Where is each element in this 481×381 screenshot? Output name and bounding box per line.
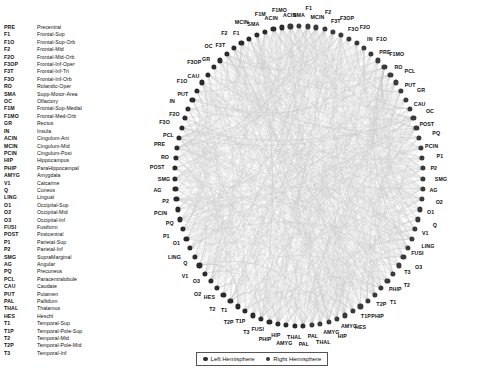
graph-node-f2o[interactable] [182,115,187,120]
graph-node-f1o[interactable] [369,51,374,56]
graph-node-f1m[interactable] [263,29,268,34]
graph-node-thal[interactable] [292,323,297,328]
graph-node-o1[interactable] [417,207,422,212]
graph-node-ro[interactable] [173,155,178,160]
graph-node-f2[interactable] [231,46,236,51]
graph-node-mcin[interactable] [313,25,318,30]
graph-node-o2[interactable] [419,197,424,202]
graph-node-f1mo[interactable] [279,25,284,30]
graph-node-t3[interactable] [396,263,401,268]
graph-node-f1[interactable] [239,41,244,46]
abbreviation-row: FUSIFusiform [4,224,128,231]
graph-node-amyg[interactable] [284,323,289,328]
graph-node-ling[interactable] [409,236,414,241]
graph-node-amyg[interactable] [326,319,331,324]
graph-node-sma[interactable] [254,32,259,37]
graph-node-o1[interactable] [184,236,189,241]
graph-node-f3t[interactable] [224,51,229,56]
graph-node-in[interactable] [186,106,191,111]
graph-node-pcl[interactable] [177,135,182,140]
graph-node-t3[interactable] [250,313,255,318]
graph-node-hes[interactable] [350,309,355,314]
graph-node-acin[interactable] [271,27,276,32]
graph-node-t1p[interactable] [243,309,248,314]
graph-node-t1[interactable] [379,286,384,291]
graph-node-q[interactable] [192,254,197,259]
graph-node-pq[interactable] [178,217,183,222]
graph-node-pal[interactable] [301,323,306,328]
graph-node-f3o[interactable] [179,125,184,130]
graph-node-pcl[interactable] [393,80,398,85]
graph-node-label: F3O [159,119,170,125]
graph-node-post[interactable] [414,125,419,130]
graph-node-hip[interactable] [275,321,280,326]
graph-node-f3op[interactable] [338,32,343,37]
abbreviation-name: Temporal-Sup [37,320,128,327]
graph-node-v1[interactable] [197,263,202,268]
graph-node-t2[interactable] [391,271,396,276]
graph-node-f1[interactable] [305,24,310,29]
graph-node-oc[interactable] [217,58,222,63]
graph-node-q[interactable] [415,217,420,222]
graph-node-thal[interactable] [318,321,323,326]
graph-node-ro[interactable] [388,72,393,77]
graph-node-gr[interactable] [211,65,216,70]
graph-node-f2o[interactable] [354,41,359,46]
graph-node-cau[interactable] [407,106,412,111]
graph-node-cau[interactable] [199,80,204,85]
graph-node-hip[interactable] [334,316,339,321]
graph-node-amyg[interactable] [342,313,347,318]
abbreviation-key: P2 [4,246,37,253]
abbreviation-name: Calcarine [37,180,128,187]
graph-node-pcin[interactable] [418,145,423,150]
graph-node-put[interactable] [190,97,195,102]
graph-node-phip[interactable] [267,319,272,324]
graph-node-v1[interactable] [412,227,417,232]
graph-node-t2[interactable] [221,292,226,297]
graph-node-smg[interactable] [420,176,425,181]
graph-node-acin[interactable] [288,24,293,29]
graph-node-f3t[interactable] [330,29,335,34]
graph-node-gr[interactable] [403,97,408,102]
graph-node-ag[interactable] [420,186,425,191]
graph-node-f2[interactable] [322,27,327,32]
graph-node-hes[interactable] [214,286,219,291]
graph-node-smg[interactable] [172,176,177,181]
graph-node-mcin[interactable] [246,36,251,41]
graph-node-t2p[interactable] [372,292,377,297]
abbreviation-key: T3 [4,350,37,357]
graph-node-f1mo[interactable] [382,65,387,70]
graph-node-in[interactable] [361,46,366,51]
abbreviation-row: P1Parietal-Sup [4,239,128,246]
graph-node-pre[interactable] [175,145,180,150]
graph-node-label: PCIN [425,143,438,149]
graph-node-sma[interactable] [296,23,301,28]
graph-node-pq[interactable] [416,135,421,140]
graph-node-pre[interactable] [375,58,380,63]
graph-node-ag[interactable] [173,186,178,191]
graph-node-p2[interactable] [420,166,425,171]
graph-node-fusi[interactable] [405,245,410,250]
graph-node-pcin[interactable] [176,207,181,212]
graph-node-fusi[interactable] [258,316,263,321]
graph-node-t1[interactable] [228,298,233,303]
graph-node-p1[interactable] [420,155,425,160]
graph-node-f1o[interactable] [194,88,199,93]
graph-node-ling[interactable] [188,245,193,250]
graph-node-o2[interactable] [208,279,213,284]
abbreviation-row: CAUCaudate [4,283,128,290]
graph-node-t2p[interactable] [235,304,240,309]
graph-node-t1p[interactable] [358,304,363,309]
graph-node-put[interactable] [398,88,403,93]
graph-node-oc[interactable] [411,115,416,120]
graph-node-o3[interactable] [401,254,406,259]
graph-node-phip[interactable] [365,298,370,303]
graph-node-f3o[interactable] [346,36,351,41]
graph-node-o3[interactable] [202,271,207,276]
graph-node-phip[interactable] [385,279,390,284]
graph-node-pal[interactable] [309,323,314,328]
graph-node-p2[interactable] [174,197,179,202]
graph-node-f3op[interactable] [205,72,210,77]
graph-node-post[interactable] [173,166,178,171]
graph-node-p1[interactable] [180,227,185,232]
